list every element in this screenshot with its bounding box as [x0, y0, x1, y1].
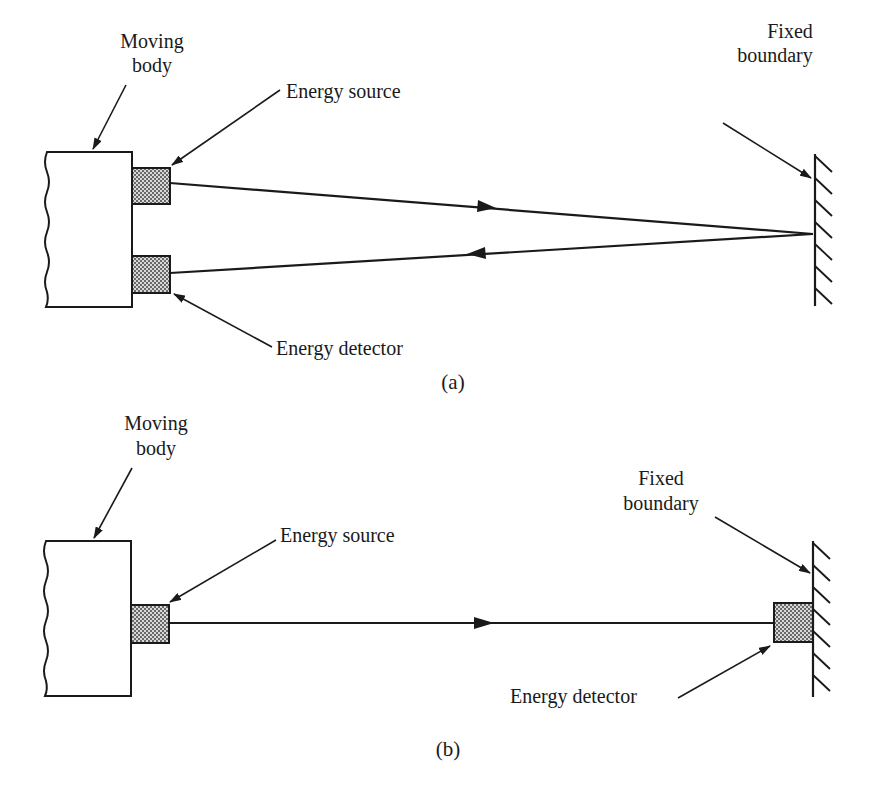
energy-source-pointer-a [172, 90, 280, 165]
beam-direction-arrow-b [474, 617, 494, 629]
fixed-boundary-label-a-line1: Fixed [767, 20, 813, 42]
moving-body-label-a-line1: Moving [120, 30, 183, 53]
panel-b-caption: (b) [436, 737, 461, 761]
panel-b: Moving body Energy source Energy detecto… [44, 412, 830, 761]
panel-a: Moving body Energy source Energy detecto… [45, 20, 832, 394]
moving-body-a [45, 152, 132, 307]
moving-body-b [44, 541, 131, 696]
fixed-boundary-pointer-a [723, 123, 811, 178]
energy-detector-label-b: Energy detector [510, 685, 637, 708]
beam-direction-arrow-outgoing-a [477, 200, 496, 212]
beam-direction-arrow-return-a [467, 247, 486, 259]
fixed-boundary-pointer-b [715, 517, 810, 573]
energy-source-block-b [131, 605, 169, 643]
moving-body-label-b-line2: body [136, 437, 176, 460]
fixed-boundary-label-b-line2: boundary [623, 492, 699, 515]
reflected-beam-a [170, 234, 813, 273]
moving-body-label-a-line2: body [132, 54, 172, 77]
diagram-canvas: Moving body Energy source Energy detecto… [0, 0, 880, 796]
energy-source-label-b: Energy source [280, 524, 395, 547]
fixed-boundary-label-a-line2: boundary [737, 44, 813, 67]
energy-detector-pointer-b [678, 646, 770, 698]
energy-source-label-a: Energy source [286, 80, 401, 103]
energy-detector-pointer-a [174, 294, 272, 347]
moving-body-pointer-b [94, 468, 132, 538]
fixed-boundary-label-b-line1: Fixed [638, 467, 684, 489]
fixed-boundary-b [813, 541, 830, 697]
panel-a-caption: (a) [441, 370, 464, 394]
energy-source-block-a [132, 168, 170, 204]
energy-detector-label-a: Energy detector [276, 337, 403, 360]
energy-detector-block-b [774, 603, 813, 642]
moving-body-pointer-a [93, 85, 126, 149]
moving-body-label-b-line1: Moving [124, 412, 187, 435]
energy-detector-block-a [132, 256, 170, 293]
fixed-boundary-a [815, 154, 832, 306]
energy-source-pointer-b [170, 540, 276, 602]
